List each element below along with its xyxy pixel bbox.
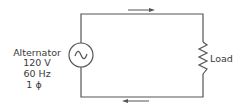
current-arrow-left-icon [122,99,149,103]
load-label: Load [210,53,233,64]
source-voltage-label: 120 V [23,57,51,68]
circuit-wires [81,14,203,97]
ac-source-sine-icon [69,43,93,67]
current-arrow-right-icon [128,8,155,12]
source-phase-label: 1 ϕ [26,79,41,90]
left-wire-top [81,14,203,43]
source-frequency-label: 60 Hz [23,68,50,79]
resistor-zigzag-icon [199,42,207,74]
circuit-diagram: Alternator 120 V 60 Hz 1 ϕ Load [0,0,243,111]
right-wire-bottom [81,67,203,97]
